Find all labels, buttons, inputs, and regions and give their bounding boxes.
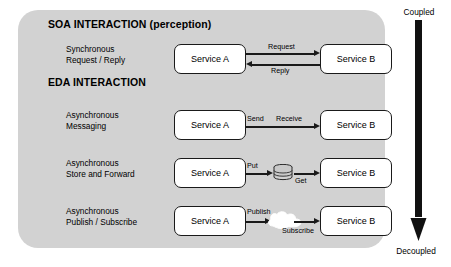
service-a-box[interactable]: Service A xyxy=(174,206,246,236)
row-label-line1: Synchronous xyxy=(66,44,176,55)
row-label: Asynchronous Messaging xyxy=(66,110,176,131)
connector-datastore: Put Get xyxy=(246,158,320,188)
subscribe-arrow-line xyxy=(294,221,314,223)
database-cylinder-icon xyxy=(273,164,293,181)
request-label: Request xyxy=(268,43,295,51)
service-b-box[interactable]: Service B xyxy=(320,206,392,236)
service-b-box[interactable]: Service B xyxy=(320,158,392,188)
row-label: Synchronous Request / Reply xyxy=(66,44,176,65)
put-arrow-line xyxy=(246,173,267,175)
reply-label: Reply xyxy=(271,67,289,75)
publish-arrow-line xyxy=(246,221,266,223)
send-arrow-line xyxy=(246,126,314,128)
decoupled-label: Decoupled xyxy=(386,246,446,256)
row-label-line2: Request / Reply xyxy=(66,55,176,66)
diagram-canvas: SOA INTERACTION (perception) EDA INTERAC… xyxy=(0,0,451,267)
reply-arrow-head xyxy=(246,61,252,67)
receive-label: Receive xyxy=(276,115,302,123)
row-label-line2: Publish / Subscribe xyxy=(66,217,176,228)
service-a-box[interactable]: Service A xyxy=(174,158,246,188)
row-label-line1: Asynchronous xyxy=(66,206,176,217)
connector-single-arrow: Send Receive xyxy=(246,110,320,140)
subscribe-label: Subscribe xyxy=(282,227,314,235)
connector-cloud: Publish Subscribe xyxy=(246,206,320,236)
service-a-box[interactable]: Service A xyxy=(174,110,246,140)
request-arrow-line xyxy=(246,53,314,55)
put-label: Put xyxy=(247,162,258,170)
service-b-box[interactable]: Service B xyxy=(320,110,392,140)
row-label-line1: Asynchronous xyxy=(66,110,176,121)
section-header-soa: SOA INTERACTION (perception) xyxy=(48,18,211,30)
row-label: Asynchronous Store and Forward xyxy=(66,158,176,179)
coupling-axis-arrow xyxy=(410,20,427,242)
section-header-eda: EDA INTERACTION xyxy=(48,76,146,88)
coupled-label: Coupled xyxy=(389,7,449,17)
row-label-line1: Asynchronous xyxy=(66,158,176,169)
row-label-line2: Messaging xyxy=(66,121,176,132)
service-a-box[interactable]: Service A xyxy=(174,44,246,74)
row-label: Asynchronous Publish / Subscribe xyxy=(66,206,176,227)
service-b-box[interactable]: Service B xyxy=(320,44,392,74)
get-label: Get xyxy=(295,177,307,185)
get-arrow-line xyxy=(294,173,314,175)
send-label: Send xyxy=(247,115,264,123)
row-label-line2: Store and Forward xyxy=(66,169,176,180)
connector-double-arrow: Request Reply xyxy=(246,44,320,74)
